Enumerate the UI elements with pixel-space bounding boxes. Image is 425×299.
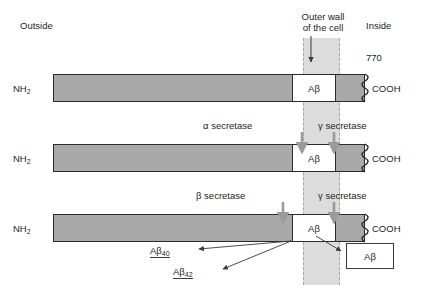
n-terminus-label-row1: NH2 bbox=[13, 83, 31, 94]
label-residue-count-770: 770 bbox=[366, 52, 382, 63]
app-ectodomain-segment-row1 bbox=[53, 74, 293, 102]
nh-subscript: 2 bbox=[27, 88, 31, 95]
label-inside: Inside bbox=[366, 20, 391, 31]
nh-text: NH bbox=[13, 223, 27, 234]
abeta42-subscript: 42 bbox=[185, 271, 193, 278]
label-outer-wall-of-cell: Outer wall of the cell bbox=[288, 12, 358, 33]
nh-subscript: 2 bbox=[27, 228, 31, 235]
abeta-segment-row2 bbox=[292, 144, 336, 172]
label-outside: Outside bbox=[20, 20, 53, 31]
boxed-abeta-label: Aβ bbox=[364, 251, 376, 262]
c-terminus-label-row3: COOH bbox=[372, 223, 401, 234]
product-abeta42: Aβ42 bbox=[173, 266, 193, 279]
label-gamma-secretase-row3: γ secretase bbox=[318, 190, 367, 201]
abeta-segment-row1 bbox=[292, 74, 336, 102]
abeta42-text: Aβ bbox=[173, 266, 185, 277]
abeta40-text: Aβ bbox=[150, 245, 162, 256]
app-ectodomain-segment-row3 bbox=[53, 214, 293, 242]
n-terminus-label-row3: NH2 bbox=[13, 223, 31, 234]
row-beta-gamma-cleavage: NH2 Aβ COOH bbox=[0, 214, 425, 244]
row-alpha-gamma-cleavage: NH2 Aβ COOH bbox=[0, 144, 425, 174]
app-cytoplasmic-segment-row1 bbox=[335, 74, 365, 102]
nh-subscript: 2 bbox=[27, 158, 31, 165]
row-intact-app: NH2 Aβ COOH bbox=[0, 74, 425, 104]
c-terminus-label-row1: COOH bbox=[372, 83, 401, 94]
outer-wall-line2: of the cell bbox=[303, 22, 344, 33]
c-terminus-label-row2: COOH bbox=[372, 153, 401, 164]
outer-wall-line1: Outer wall bbox=[302, 11, 345, 22]
n-terminus-label-row2: NH2 bbox=[13, 153, 31, 164]
app-cytoplasmic-segment-row3 bbox=[335, 214, 365, 242]
app-cytoplasmic-segment-row2 bbox=[335, 144, 365, 172]
nh-text: NH bbox=[13, 153, 27, 164]
app-ectodomain-segment-row2 bbox=[53, 144, 293, 172]
abeta40-subscript: 40 bbox=[162, 250, 170, 257]
label-alpha-secretase: α secretase bbox=[203, 120, 252, 131]
label-gamma-secretase-row2: γ secretase bbox=[318, 120, 367, 131]
arrow-to-abeta42 bbox=[223, 241, 291, 269]
boxed-product-abeta: Aβ bbox=[346, 243, 394, 269]
product-abeta40: Aβ40 bbox=[150, 245, 170, 258]
label-beta-secretase: β secretase bbox=[196, 190, 245, 201]
nh-text: NH bbox=[13, 83, 27, 94]
abeta-segment-row3 bbox=[292, 214, 336, 242]
app-protein-processing-diagram: Outside Outer wall of the cell Inside 77… bbox=[0, 0, 425, 299]
